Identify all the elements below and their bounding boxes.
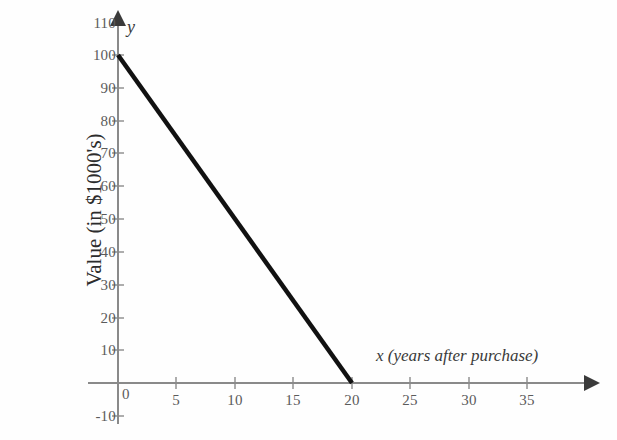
y-tick-label-10: 10 [76,342,116,359]
x-axis-title: x (years after purchase) [376,346,538,366]
y-tick-label-70: 70 [76,145,116,162]
x-tick-label-35: 35 [519,392,534,409]
y-tick-label-50: 50 [76,211,116,228]
x-tick-label-15: 15 [285,392,300,409]
chart-canvas: Value (in $1000's) x (years after purcha… [0,0,617,440]
y-tick-label-neg10: -10 [76,408,116,425]
data-line-segment [118,55,352,383]
y-tick-label-80: 80 [76,113,116,130]
x-tick-label-20: 20 [344,392,359,409]
y-tick-label-100: 100 [76,47,116,64]
y-tick-label-90: 90 [76,80,116,97]
y-tick-label-60: 60 [76,178,116,195]
x-tick-label-5: 5 [172,392,180,409]
y-variable-label: y [127,17,135,38]
origin-label: 0 [122,386,130,403]
x-tick-label-25: 25 [402,392,417,409]
x-tick-label-10: 10 [227,392,242,409]
y-tick-label-20: 20 [76,310,116,327]
y-tick-label-110: 110 [76,15,116,32]
x-tick-label-30: 30 [461,392,476,409]
y-tick-label-30: 30 [76,277,116,294]
y-tick-label-40: 40 [76,244,116,261]
x-axis-group [88,377,588,389]
